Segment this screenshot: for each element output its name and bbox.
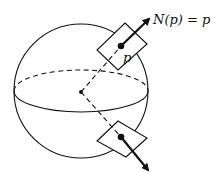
center-point: [79, 90, 83, 94]
equator-back-dashed: [14, 70, 148, 91]
gauss-map-diagram: N(p) = p p: [0, 0, 215, 173]
normal-equation-label: N(p) = p: [152, 12, 211, 27]
point-p-label: p: [123, 50, 132, 65]
radius-to-lower-point: [81, 92, 121, 137]
equator-front: [14, 91, 148, 112]
